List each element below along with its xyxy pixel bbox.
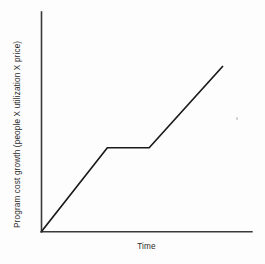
y-axis-label: Program cost growth (people X utilizatio…	[14, 0, 26, 228]
data-series-line	[42, 66, 224, 232]
chart-figure: Program cost growth (people X utilizatio…	[0, 0, 265, 264]
chart-plot-area	[0, 0, 265, 264]
scan-artifact-speck	[236, 117, 238, 120]
x-axis-label: Time	[41, 243, 252, 251]
